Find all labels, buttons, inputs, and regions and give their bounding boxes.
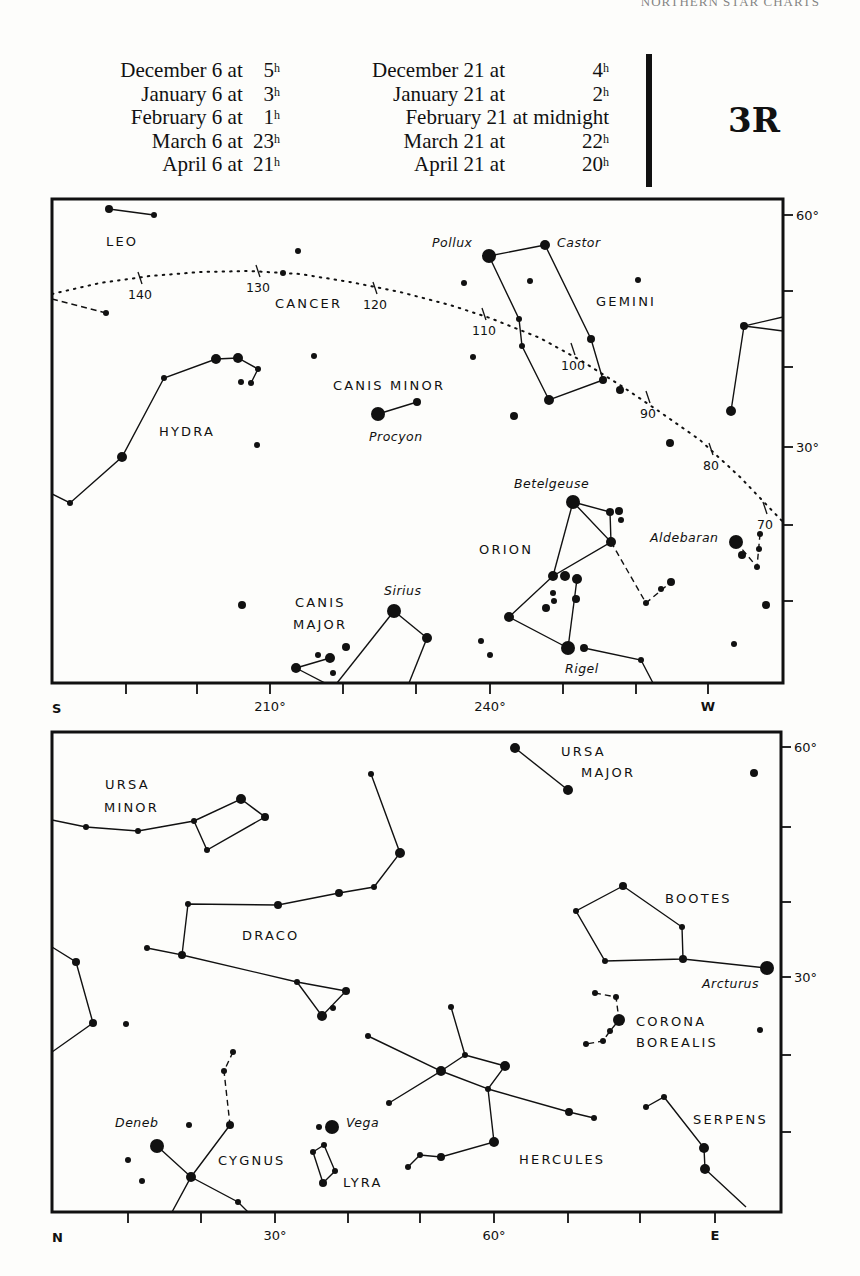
star-icon: [150, 1139, 164, 1153]
y-axis-label: 60°: [794, 740, 817, 755]
star-icon: [405, 1164, 411, 1170]
star-icon: [395, 848, 405, 858]
compass-label: N: [52, 1230, 63, 1245]
star-icon: [613, 1014, 625, 1026]
star-icon: [221, 1068, 227, 1074]
star-name-label: Arcturus: [701, 976, 759, 991]
star-icon: [316, 1124, 322, 1130]
star-icon: [317, 1011, 327, 1021]
star-icon: [139, 1178, 145, 1184]
star-icon: [319, 1179, 327, 1187]
star-icon: [321, 1142, 327, 1148]
star-icon: [437, 1153, 445, 1161]
star-icon: [230, 1049, 236, 1055]
star-icon: [613, 994, 619, 1000]
star-icon: [235, 1199, 241, 1205]
star-icon: [750, 769, 758, 777]
constellation-line: [182, 955, 346, 1016]
star-icon: [661, 1094, 667, 1100]
constellation-label: URSA: [105, 777, 150, 792]
constellation-line: [441, 1007, 465, 1071]
star-icon: [125, 1157, 131, 1163]
constellation-label: MAJOR: [581, 765, 635, 780]
constellation-line: [441, 1055, 505, 1089]
star-icon: [332, 1168, 338, 1174]
constellation-line: [224, 1052, 233, 1125]
x-axis-label: 30°: [263, 1228, 286, 1243]
star-icon: [462, 1052, 468, 1058]
star-icon: [699, 1143, 709, 1153]
star-icon: [72, 958, 80, 966]
star-icon: [89, 1019, 97, 1027]
star-icon: [679, 924, 685, 930]
constellation-label: LYRA: [343, 1175, 383, 1190]
star-icon: [365, 1033, 371, 1039]
star-icon: [371, 884, 377, 890]
star-icon: [342, 987, 350, 995]
star-icon: [619, 882, 627, 890]
star-icon: [330, 1005, 336, 1011]
star-name-label: Vega: [346, 1115, 379, 1130]
star-icon: [186, 1122, 192, 1128]
star-icon: [185, 901, 191, 907]
star-icon: [83, 824, 89, 830]
star-icon: [436, 1066, 446, 1076]
star-icon: [489, 1137, 499, 1147]
constellation-label: MINOR: [104, 800, 159, 815]
star-icon: [583, 1041, 589, 1047]
constellation-line: [313, 1145, 335, 1183]
constellation-label: URSA: [561, 744, 606, 759]
star-icon: [310, 1149, 316, 1155]
star-icon: [191, 818, 197, 824]
star-icon: [204, 847, 210, 853]
star-icon: [591, 1115, 597, 1121]
star-icon: [643, 1104, 649, 1110]
star-icon: [448, 1004, 454, 1010]
chart-frame: [52, 732, 781, 1212]
constellation-line: [368, 1036, 441, 1103]
star-icon: [178, 951, 186, 959]
star-icon: [607, 1028, 613, 1034]
star-icon: [368, 771, 374, 777]
star-icon: [294, 979, 300, 985]
x-axis-label: E: [711, 1228, 720, 1243]
star-icon: [386, 1100, 392, 1106]
y-axis-label: 30°: [794, 970, 817, 985]
star-icon: [700, 1164, 710, 1174]
star-icon: [592, 990, 598, 996]
star-icon: [600, 1038, 606, 1044]
star-icon: [510, 743, 520, 753]
constellation-label: CORONA: [636, 1014, 706, 1029]
star-icon: [563, 785, 573, 795]
star-icon: [757, 1027, 763, 1033]
star-icon: [186, 1172, 196, 1182]
star-icon: [274, 901, 282, 909]
star-icon: [261, 813, 269, 821]
star-icon: [565, 1108, 573, 1116]
star-chart-north: 30°60°EN60°30°URSAMINORURSAMAJORDRACOBOO…: [0, 0, 860, 1276]
constellation-line: [488, 1089, 594, 1118]
star-icon: [500, 1061, 510, 1071]
star-icon: [573, 908, 579, 914]
constellation-label: SERPENS: [693, 1112, 768, 1127]
constellation-label: CYGNUS: [218, 1153, 286, 1168]
star-icon: [417, 1152, 423, 1158]
star-icon: [135, 828, 141, 834]
x-axis-label: 60°: [482, 1228, 505, 1243]
star-icon: [325, 1120, 339, 1134]
star-icon: [236, 794, 246, 804]
star-icon: [335, 889, 343, 897]
star-icon: [679, 955, 687, 963]
star-icon: [123, 1021, 129, 1027]
star-icon: [485, 1086, 491, 1092]
star-icon: [226, 1121, 234, 1129]
constellation-label: BOREALIS: [636, 1035, 718, 1050]
constellation-label: BOOTES: [665, 891, 732, 906]
star-icon: [144, 945, 150, 951]
star-icon: [760, 961, 774, 975]
star-icon: [602, 958, 608, 964]
star-name-label: Deneb: [115, 1115, 158, 1130]
constellation-label: DRACO: [242, 928, 300, 943]
constellation-line: [683, 959, 767, 968]
constellation-label: HERCULES: [519, 1152, 605, 1167]
